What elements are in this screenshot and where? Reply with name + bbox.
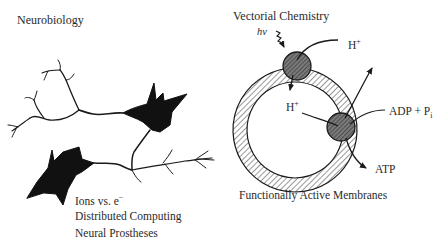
label-atp: ATP [375, 164, 395, 176]
membrane-vesicle-illustration [233, 31, 385, 192]
protein-top-icon [283, 52, 311, 80]
light-wave-icon [276, 31, 284, 47]
caption-ions-text: Ions vs. e [75, 195, 119, 207]
label-adp-pi: ADP + Pi [389, 106, 432, 120]
label-adp-text: ADP + P [389, 105, 430, 117]
label-proton-in-charge: + [294, 99, 299, 108]
label-light-hv: hv [257, 27, 267, 38]
caption-distributed-computing: Distributed Computing [75, 211, 181, 223]
caption-ions-superscript: − [119, 193, 124, 202]
neuron-soma-upper [123, 83, 187, 132]
label-proton-in: H+ [286, 100, 299, 113]
label-proton-out: H+ [348, 38, 361, 51]
label-adp-subscript: i [430, 111, 432, 120]
panel-title-neurobiology: Neurobiology [17, 14, 84, 26]
caption-ions: Ions vs. e− [75, 194, 123, 207]
caption-neural-prostheses: Neural Prostheses [75, 228, 158, 240]
panel-title-vectorial-chemistry: Vectorial Chemistry [233, 10, 329, 22]
diagram-canvas [0, 0, 447, 250]
label-proton-out-charge: + [356, 37, 361, 46]
neuron-network-illustration [8, 60, 214, 205]
caption-functionally-active-membranes: Functionally Active Membranes [239, 190, 387, 202]
protein-right-icon [327, 113, 355, 141]
